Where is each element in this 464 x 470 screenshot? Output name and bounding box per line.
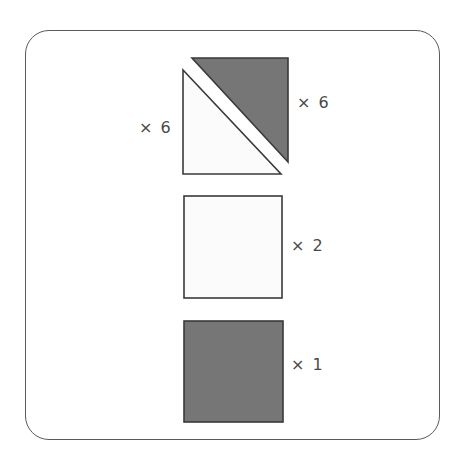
light-triangle-multiplier-label: × 6 (139, 120, 172, 136)
dark-square-multiplier-label: × 1 (291, 357, 324, 373)
figure-root: × 6 × 6 × 2 × 1 (0, 0, 464, 470)
rounded-panel (25, 30, 440, 440)
dark-triangle-multiplier-label: × 6 (297, 95, 330, 111)
light-square-multiplier-label: × 2 (291, 238, 324, 254)
